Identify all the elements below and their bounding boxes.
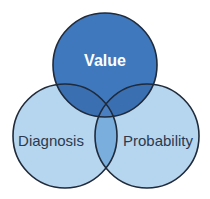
probability-label: Probability	[123, 132, 194, 149]
diagnosis-label: Diagnosis	[18, 132, 84, 149]
value-label: Value	[84, 52, 126, 69]
venn-diagram: Value Diagnosis Probability	[0, 0, 210, 199]
venn-svg: Value Diagnosis Probability	[0, 0, 210, 199]
